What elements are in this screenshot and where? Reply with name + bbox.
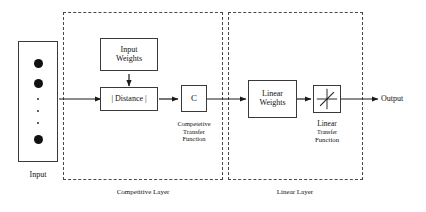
connector-layer xyxy=(0,0,426,212)
input-neuron-dot xyxy=(34,135,43,144)
linear-caption-line1: Linear xyxy=(295,120,359,129)
linear-caption-line2: Transfer xyxy=(295,129,359,136)
input-neuron-column xyxy=(18,41,58,162)
output-label: Output xyxy=(381,94,425,103)
distance-label: | Distance | xyxy=(111,95,146,104)
linear-transfer-caption: Linear Transfer Function xyxy=(295,120,359,144)
compet-caption-line2: Transfer xyxy=(152,128,236,136)
linear-weights-line2: Weights xyxy=(249,99,296,108)
diagram-canvas: Input Input Weights | Distance | C Compe… xyxy=(0,0,426,212)
distance-box: | Distance | xyxy=(100,87,158,111)
linear-weights-box: Linear Weights xyxy=(248,80,297,118)
competitive-symbol: C xyxy=(191,93,197,103)
input-neuron-dot xyxy=(34,79,43,88)
compet-caption-line1: Competetive xyxy=(152,120,236,128)
linear-transfer-box xyxy=(313,85,341,113)
competitive-layer-label: Competitive Layer xyxy=(83,188,203,196)
input-ellipsis-dot xyxy=(37,122,39,124)
input-label: Input xyxy=(8,170,68,179)
input-weights-line2: Weights xyxy=(101,55,157,64)
input-neuron-dot xyxy=(34,59,43,68)
input-ellipsis-dot xyxy=(37,98,39,100)
linear-layer-label: Linear Layer xyxy=(245,188,345,196)
linear-caption-line3: Function xyxy=(295,136,359,144)
competitive-transfer-box: C xyxy=(181,85,207,112)
input-weights-box: Input Weights xyxy=(100,38,158,71)
input-ellipsis-dot xyxy=(37,110,39,112)
linear-transfer-icon xyxy=(314,86,340,112)
compet-caption-line3: Function xyxy=(152,135,236,143)
competitive-transfer-caption: Competetive Transfer Function xyxy=(152,120,236,143)
